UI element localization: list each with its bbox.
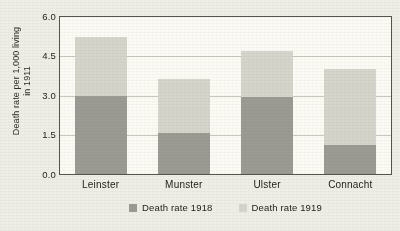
y-tick-1-5: 1.5 bbox=[26, 129, 56, 140]
bar-segment-1919-leinster bbox=[75, 37, 127, 96]
chart-legend: Death rate 1918 Death rate 1919 bbox=[59, 202, 392, 213]
bar-group bbox=[60, 17, 391, 174]
legend-item-1919: Death rate 1919 bbox=[239, 202, 322, 213]
bar-segment-1918-connacht bbox=[324, 145, 376, 174]
y-tick-0: 0.0 bbox=[26, 169, 56, 180]
y-tick-3: 3.0 bbox=[26, 90, 56, 101]
bar-connacht bbox=[324, 17, 376, 174]
bar-segment-1918-leinster bbox=[75, 96, 127, 175]
plot-area bbox=[59, 16, 392, 175]
chart-figure: Death rate per 1,000 living in 1911 6.0 … bbox=[0, 0, 400, 231]
legend-label-1919: Death rate 1919 bbox=[252, 202, 322, 213]
y-axis-ticks: 6.0 4.5 3.0 1.5 0.0 bbox=[22, 0, 56, 231]
bar-segment-1918-munster bbox=[158, 133, 210, 174]
legend-swatch-1919-icon bbox=[239, 204, 247, 212]
x-label-ulster: Ulster bbox=[230, 179, 304, 195]
legend-label-1918: Death rate 1918 bbox=[142, 202, 212, 213]
bar-segment-1918-ulster bbox=[241, 97, 293, 174]
x-label-munster: Munster bbox=[147, 179, 221, 195]
legend-item-1918: Death rate 1918 bbox=[129, 202, 212, 213]
bar-segment-1919-ulster bbox=[241, 51, 293, 97]
x-label-connacht: Connacht bbox=[313, 179, 387, 195]
y-tick-4-5: 4.5 bbox=[26, 50, 56, 61]
legend-swatch-1918-icon bbox=[129, 204, 137, 212]
x-axis-labels: Leinster Munster Ulster Connacht bbox=[59, 179, 392, 195]
bar-segment-1919-connacht bbox=[324, 69, 376, 145]
y-tick-6: 6.0 bbox=[26, 11, 56, 22]
x-label-leinster: Leinster bbox=[64, 179, 138, 195]
bar-segment-1919-munster bbox=[158, 79, 210, 134]
bar-munster bbox=[158, 17, 210, 174]
y-axis-title-line1: Death rate per 1,000 living bbox=[11, 27, 21, 135]
bar-ulster bbox=[241, 17, 293, 174]
bar-leinster bbox=[75, 17, 127, 174]
